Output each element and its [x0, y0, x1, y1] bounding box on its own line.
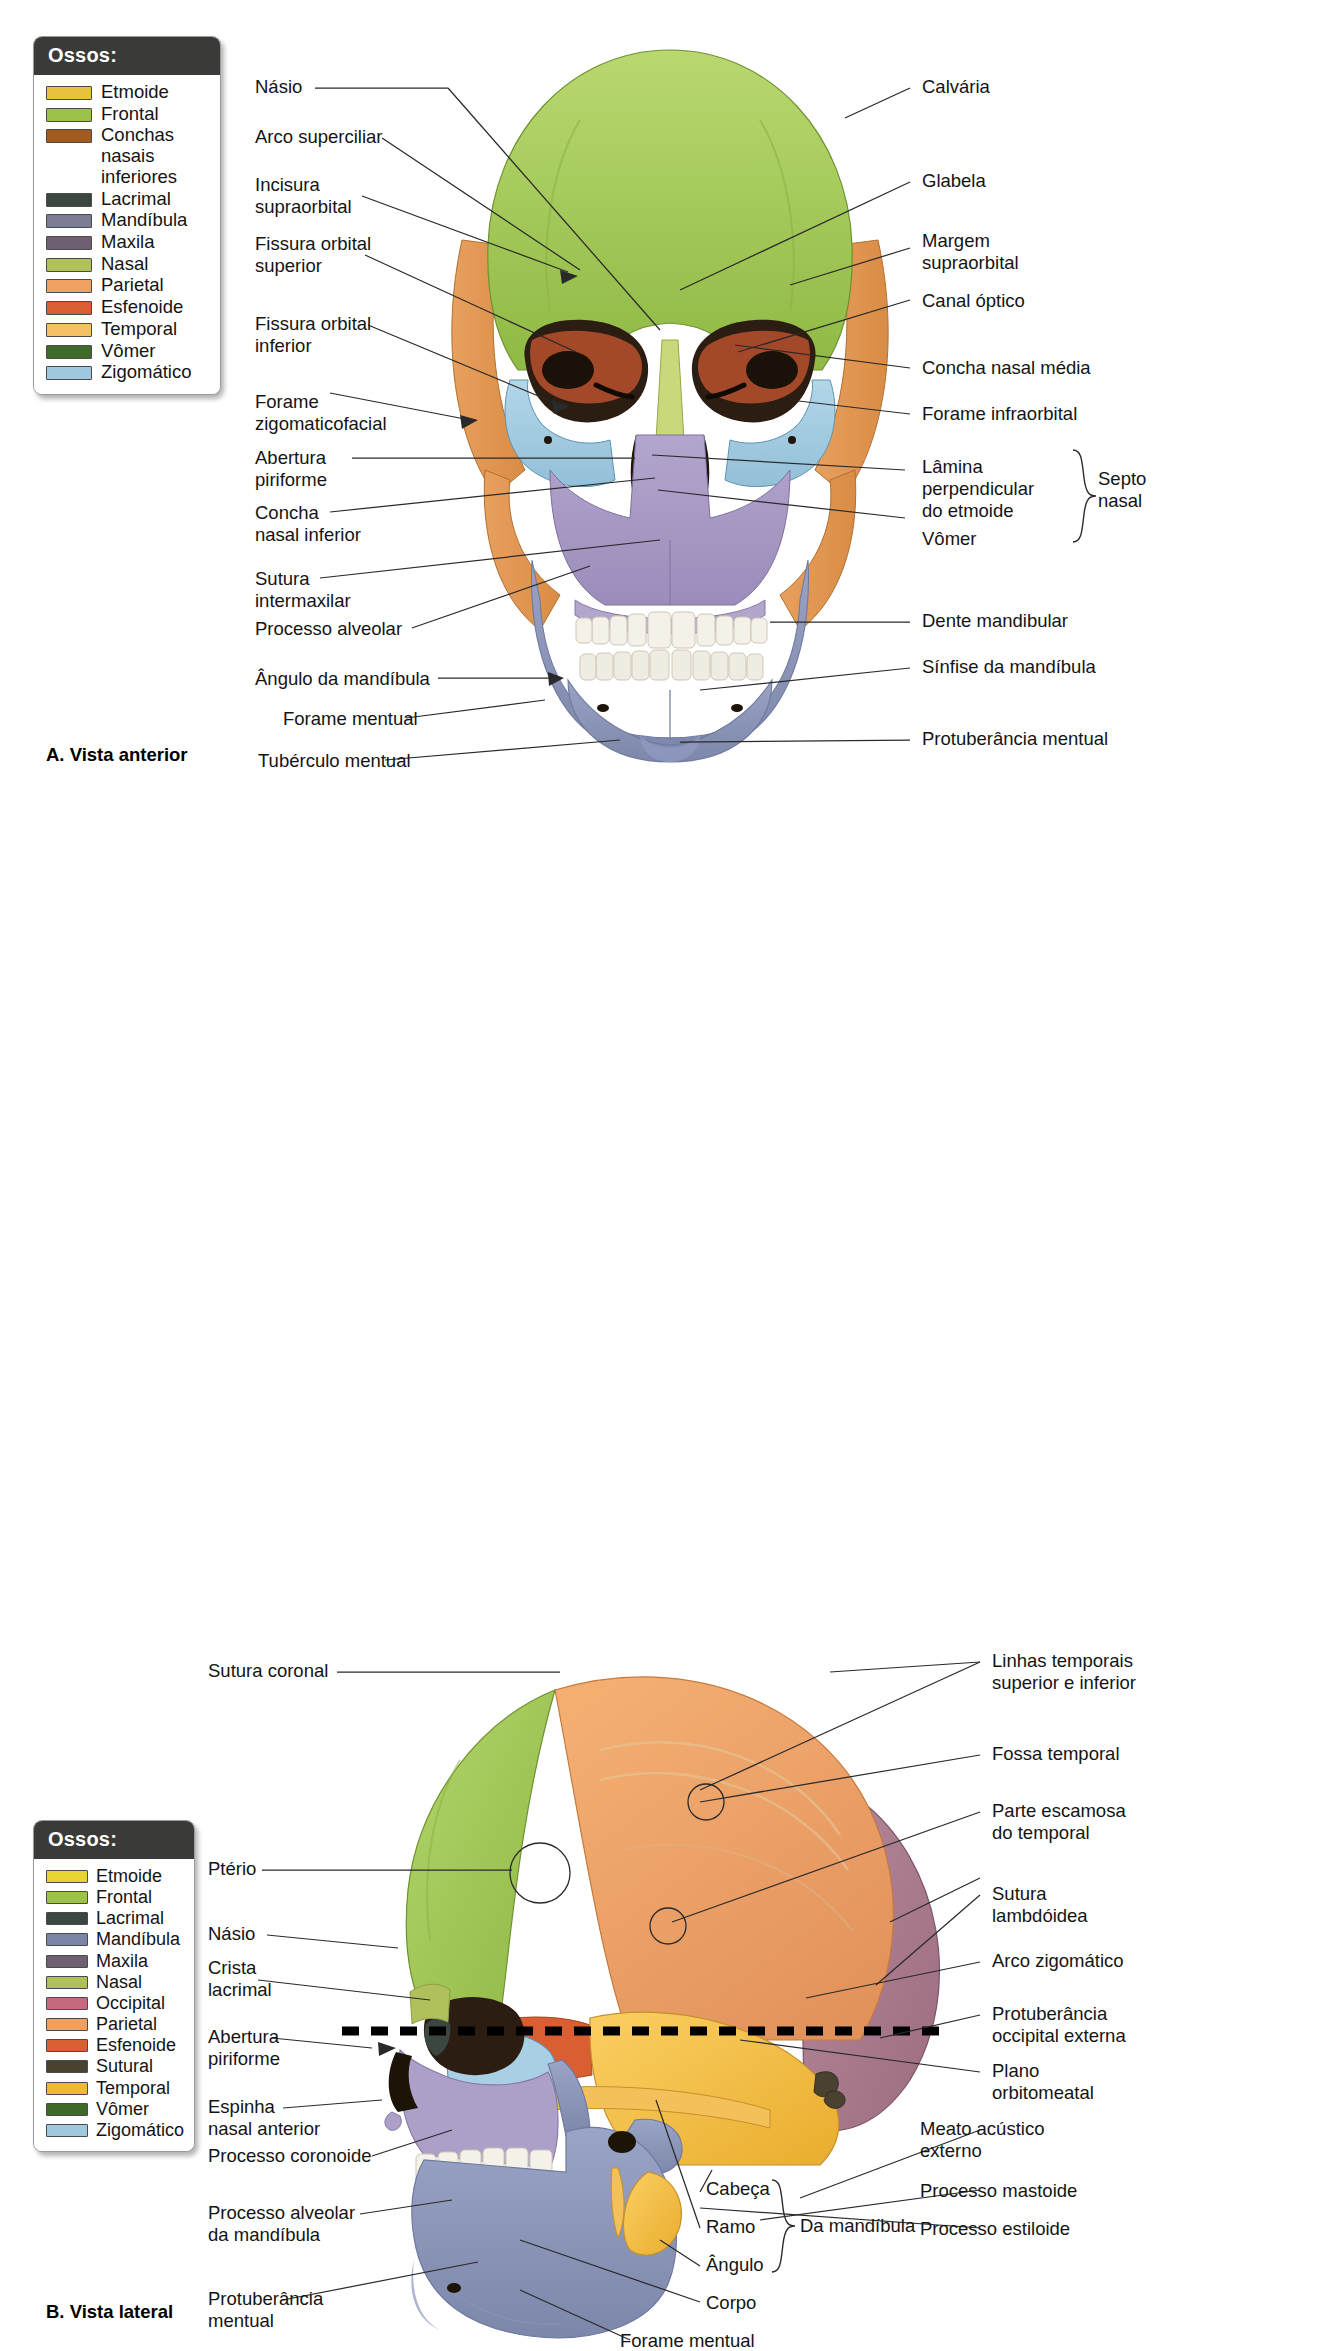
legend-item-label: Frontal: [96, 1887, 152, 1907]
legend-item: Maxila: [46, 1951, 184, 1971]
legend-item: Parietal: [46, 2014, 184, 2034]
legend-item-label: Lacrimal: [101, 189, 171, 210]
label-fossa-temporal: Fossa temporal: [992, 1743, 1120, 1765]
label-fissura-orbital-superior: Fissura orbital superior: [255, 233, 371, 277]
label-calvaria: Calvária: [922, 76, 990, 98]
label-sutura-intermaxilar: Sutura intermaxilar: [255, 568, 351, 612]
legend-item: Mandíbula: [46, 1929, 184, 1949]
label-lamina-perpendicular: Lâmina perpendicular do etmoide: [922, 456, 1034, 523]
legend-item: Sutural: [46, 2056, 184, 2076]
label-incisura-supraorbital: Incisura supraorbital: [255, 174, 352, 218]
legend-swatch: [46, 2103, 88, 2116]
legend-item: Etmoide: [46, 1866, 184, 1886]
label-pterio: Ptério: [208, 1858, 256, 1880]
legend-item-label: Etmoide: [96, 1866, 162, 1886]
legend-item-label: Esfenoide: [96, 2035, 176, 2055]
legend-item-label: Esfenoide: [101, 297, 183, 318]
legend-swatch: [46, 1870, 88, 1883]
label-margem-supraorbital: Margem supraorbital: [922, 230, 1019, 274]
legend-swatch: [46, 2082, 88, 2095]
label-arco-zigomatico: Arco zigomático: [992, 1950, 1124, 1972]
legend-swatch: [46, 366, 92, 380]
legend-swatch: [46, 2039, 88, 2052]
label-angulo-da-mandibula: Ângulo da mandíbula: [255, 668, 430, 690]
legend-swatch: [46, 86, 92, 100]
label-espinha-nasal-anterior: Espinha nasal anterior: [208, 2096, 320, 2140]
legend-item: Occipital: [46, 1993, 184, 2013]
label-protuberancia-mentual-anterior: Protuberância mentual: [922, 728, 1108, 750]
legend-item-label: Maxila: [101, 232, 154, 253]
legend-lateral: Ossos: Etmoide Frontal Lacrimal Mandíbul…: [33, 1820, 195, 2152]
legend-swatch: [46, 236, 92, 250]
legend-item-label: Zigomático: [96, 2120, 184, 2140]
skull-lateral-illustration: [300, 1620, 1020, 2351]
label-processo-alveolar: Processo alveolar: [255, 618, 402, 640]
legend-swatch: [46, 301, 92, 315]
legend-item-label: Vômer: [96, 2099, 149, 2119]
label-abertura-piriforme-anterior: Abertura piriforme: [255, 447, 327, 491]
label-ramo: Ramo: [706, 2216, 755, 2238]
label-processo-estiloide: Processo estiloide: [920, 2218, 1070, 2240]
legend-item-label: Frontal: [101, 104, 159, 125]
label-protuberancia-occipital-externa: Protuberância occipital externa: [992, 2003, 1126, 2047]
label-canal-optico: Canal óptico: [922, 290, 1025, 312]
legend-lateral-items: Etmoide Frontal Lacrimal Mandíbula Maxil…: [34, 1859, 194, 2151]
label-protuberancia-mentual-lateral: Protuberância mentual: [208, 2288, 323, 2332]
legend-item-label: Maxila: [96, 1951, 148, 1971]
label-processo-alveolar-da-mandibula: Processo alveolar da mandíbula: [208, 2202, 355, 2246]
label-nasio-lateral: Násio: [208, 1923, 255, 1945]
label-forame-infraorbital: Forame infraorbital: [922, 403, 1077, 425]
legend-item: Vômer: [46, 2099, 184, 2119]
label-meato-acustico-externo: Meato acústico externo: [920, 2118, 1044, 2162]
legend-swatch: [46, 1891, 88, 1904]
legend-item-label: Etmoide: [101, 82, 169, 103]
legend-swatch: [46, 2124, 88, 2137]
legend-anterior-items: Etmoide Frontal Conchas nasais inferiore…: [34, 75, 220, 394]
legend-item-label: Parietal: [101, 275, 164, 296]
legend-swatch: [46, 279, 92, 293]
legend-item: Nasal: [46, 254, 210, 275]
legend-swatch: [46, 1933, 88, 1946]
legend-swatch: [46, 2018, 88, 2031]
label-crista-lacrimal: Crista lacrimal: [208, 1957, 272, 2001]
legend-swatch: [46, 258, 92, 272]
label-sinfise-da-mandibula: Sínfise da mandíbula: [922, 656, 1096, 678]
legend-item: Nasal: [46, 1972, 184, 1992]
label-concha-nasal-inferior: Concha nasal inferior: [255, 502, 361, 546]
skull-anterior-illustration: [400, 40, 940, 780]
label-concha-nasal-media: Concha nasal média: [922, 357, 1091, 379]
legend-swatch: [46, 108, 92, 122]
label-vomer-anterior: Vômer: [922, 528, 977, 550]
legend-item: Temporal: [46, 319, 210, 340]
legend-swatch: [46, 214, 92, 228]
label-sutura-lambdoidea: Sutura lambdóidea: [992, 1883, 1088, 1927]
legend-item: Esfenoide: [46, 297, 210, 318]
legend-lateral-title: Ossos:: [34, 1821, 194, 1859]
label-processo-mastoide: Processo mastoide: [920, 2180, 1077, 2202]
label-glabela: Glabela: [922, 170, 986, 192]
label-sutura-coronal: Sutura coronal: [208, 1660, 328, 1682]
legend-item: Esfenoide: [46, 2035, 184, 2055]
label-linhas-temporais: Linhas temporais superior e inferior: [992, 1650, 1136, 1694]
legend-item: Frontal: [46, 1887, 184, 1907]
legend-item: Zigomático: [46, 2120, 184, 2140]
label-abertura-piriforme-lateral: Abertura piriforme: [208, 2026, 280, 2070]
legend-item: Mandíbula: [46, 210, 210, 231]
panel-lateral-view: Ossos: Etmoide Frontal Lacrimal Mandíbul…: [0, 800, 1321, 1797]
caption-vista-anterior: A. Vista anterior: [46, 744, 188, 766]
label-nasio-anterior: Násio: [255, 76, 302, 98]
legend-swatch: [46, 129, 92, 143]
legend-swatch: [46, 323, 92, 337]
legend-item: Frontal: [46, 104, 210, 125]
legend-item-label: Temporal: [101, 319, 177, 340]
caption-vista-lateral: B. Vista lateral: [46, 2301, 173, 2323]
label-angulo: Ângulo: [706, 2254, 764, 2276]
label-arco-superciliar: Arco superciliar: [255, 126, 383, 148]
legend-swatch: [46, 193, 92, 207]
legend-swatch: [46, 1912, 88, 1925]
legend-item-label: Conchas nasais inferiores: [101, 125, 210, 187]
legend-item: Zigomático: [46, 362, 210, 383]
label-forame-mentual-anterior: Forame mentual: [283, 708, 418, 730]
legend-anterior-title: Ossos:: [34, 37, 220, 75]
legend-item: Temporal: [46, 2078, 184, 2098]
